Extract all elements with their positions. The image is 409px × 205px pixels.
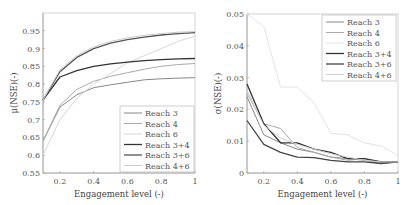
legend-entry: Reach 3+4 <box>145 141 190 150</box>
y-tick-label: 0 <box>239 169 244 178</box>
y-axis-label: σ(NSE)(-) <box>213 73 223 114</box>
x-tick-label: 0.6 <box>325 177 338 186</box>
x-tick-label: 1 <box>395 177 400 186</box>
y-tick-label: 0.05 <box>226 10 244 19</box>
x-tick-label: 0.2 <box>257 177 270 186</box>
y-tick-label: 0.85 <box>22 62 40 71</box>
legend-entry: Reach 3 <box>145 109 178 118</box>
x-tick-label: 0.4 <box>87 177 100 186</box>
series-line <box>247 90 398 162</box>
y-tick-label: 0.04 <box>226 42 244 51</box>
legend-entry: Reach 4 <box>347 29 380 38</box>
series-line <box>247 84 398 162</box>
y-tick-label: 0.6 <box>27 151 40 160</box>
legend-entry: Reach 4+6 <box>347 71 392 80</box>
legend-entry: Reach 3+6 <box>145 151 190 160</box>
y-tick-label: 0.65 <box>22 133 40 142</box>
legend-entry: Reach 6 <box>347 39 380 48</box>
figure: 0.550.60.650.70.750.80.850.90.950.20.40.… <box>0 0 409 205</box>
y-tick-label: 0.75 <box>22 98 40 107</box>
x-tick-label: 1 <box>192 177 197 186</box>
y-tick-label: 0.95 <box>22 27 40 36</box>
legend-entry: Reach 4+6 <box>145 162 190 171</box>
series-line <box>43 33 195 101</box>
legend-entry: Reach 3 <box>347 18 380 27</box>
x-tick-label: 0.8 <box>358 177 371 186</box>
series-line <box>247 121 398 164</box>
x-tick-label: 0.6 <box>121 177 134 186</box>
legend: Reach 3Reach 4Reach 6Reach 3+4Reach 3+6R… <box>120 106 194 172</box>
x-axis-label: Engagement level (-) <box>74 189 164 199</box>
y-tick-label: 0.9 <box>27 45 40 54</box>
x-axis-label: Engagement level (-) <box>278 189 368 199</box>
x-tick-label: 0.2 <box>54 177 67 186</box>
legend-entry: Reach 6 <box>145 130 178 139</box>
y-tick-label: 0.01 <box>226 137 244 146</box>
y-tick-label: 0.55 <box>22 169 40 178</box>
y-tick-label: 0.03 <box>226 74 244 83</box>
x-tick-label: 0.4 <box>291 177 304 186</box>
legend-entry: Reach 3+4 <box>347 50 392 59</box>
legend-entry: Reach 3+6 <box>347 60 392 69</box>
legend: Reach 3Reach 4Reach 6Reach 3+4Reach 3+6R… <box>322 15 396 81</box>
y-axis-label: μ(NSE)(-) <box>9 72 19 113</box>
y-tick-label: 0.7 <box>27 116 40 125</box>
y-tick-label: 0.02 <box>226 105 244 114</box>
x-tick-label: 0.8 <box>155 177 168 186</box>
chart-panel-1: 0.550.60.650.70.750.80.850.90.950.20.40.… <box>9 13 198 199</box>
y-tick-label: 0.8 <box>27 80 40 89</box>
legend-entry: Reach 4 <box>145 120 178 129</box>
chart-panel-2: 00.010.020.030.040.050.20.40.60.81Engage… <box>213 10 401 199</box>
